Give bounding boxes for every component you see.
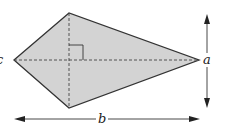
horizontal-dimension-arrow bbox=[14, 116, 200, 122]
label-a: a bbox=[203, 52, 211, 67]
kite-diagram: a b c bbox=[0, 0, 225, 132]
label-b: b bbox=[98, 111, 106, 126]
kite-shape bbox=[14, 13, 199, 108]
arrowhead-up-icon bbox=[204, 14, 210, 24]
arrowhead-right-icon bbox=[189, 116, 200, 122]
arrowhead-down-icon bbox=[204, 98, 210, 108]
arrowhead-left-icon bbox=[14, 116, 25, 122]
label-c-partial: c bbox=[0, 52, 4, 67]
